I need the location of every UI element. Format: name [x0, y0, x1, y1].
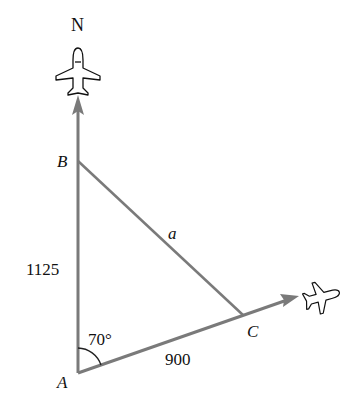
angle-arc: [78, 348, 101, 365]
side-bc-line: [78, 161, 243, 315]
side-ab-label: 1125: [26, 261, 59, 278]
north-label: N: [71, 16, 84, 34]
side-ac-label: 900: [165, 351, 191, 368]
vertex-b-label: B: [57, 153, 67, 170]
airplane-north-icon: [56, 48, 100, 95]
angle-a-label: 70°: [88, 331, 112, 348]
vertex-a-label: A: [57, 374, 67, 391]
side-bc-label: a: [168, 225, 177, 242]
airplane-east-icon: [300, 277, 343, 317]
vertex-c-label: C: [247, 323, 258, 340]
